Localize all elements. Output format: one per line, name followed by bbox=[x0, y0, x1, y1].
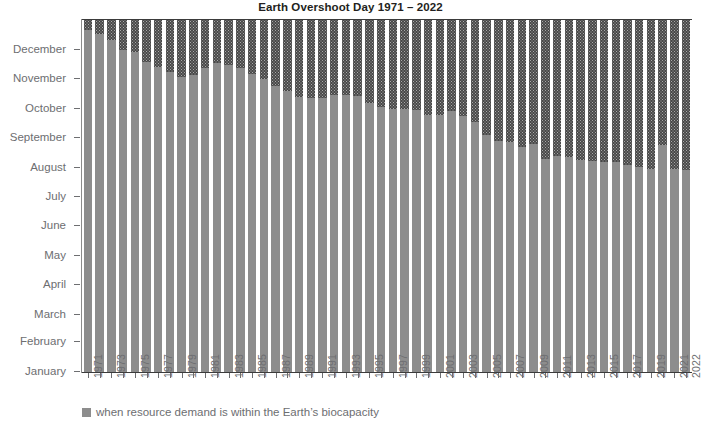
bar-overshoot-segment bbox=[260, 20, 268, 79]
y-axis-label-december: December bbox=[13, 43, 66, 55]
bar-1975 bbox=[131, 20, 139, 372]
x-axis-label-2017: 2017 bbox=[631, 354, 643, 378]
bar-1992 bbox=[330, 20, 338, 372]
x-axis-label-1985: 1985 bbox=[256, 354, 268, 378]
bar-within-biocapacity-segment bbox=[400, 109, 408, 372]
bar-overshoot-segment bbox=[553, 20, 561, 156]
bar-1987 bbox=[271, 20, 279, 372]
bar-overshoot-segment bbox=[119, 20, 127, 50]
y-axis-tick-december bbox=[74, 49, 80, 50]
x-axis-label-1991: 1991 bbox=[326, 354, 338, 378]
bar-within-biocapacity-segment bbox=[612, 162, 620, 372]
bar-within-biocapacity-segment bbox=[529, 144, 537, 372]
bar-1978 bbox=[166, 20, 174, 372]
bar-within-biocapacity-segment bbox=[213, 63, 221, 372]
bar-overshoot-segment bbox=[447, 20, 455, 111]
bar-within-biocapacity-segment bbox=[353, 96, 361, 372]
bar-2009 bbox=[529, 20, 537, 372]
x-axis-label-1983: 1983 bbox=[233, 354, 245, 378]
bar-within-biocapacity-segment bbox=[107, 40, 115, 372]
bar-within-biocapacity-segment bbox=[506, 142, 514, 372]
y-axis-label-july: July bbox=[46, 190, 66, 202]
bar-2011 bbox=[553, 20, 561, 372]
bar-2022 bbox=[682, 20, 690, 372]
y-axis-label-may: May bbox=[44, 249, 66, 261]
bar-2019 bbox=[647, 20, 655, 372]
bar-within-biocapacity-segment bbox=[670, 169, 678, 372]
y-axis-labels: JanuaryFebruaryMarchAprilMayJuneJulyAugu… bbox=[0, 0, 78, 424]
bar-within-biocapacity-segment bbox=[389, 109, 397, 372]
bar-overshoot-segment bbox=[518, 20, 526, 147]
bar-overshoot-segment bbox=[482, 20, 490, 135]
bar-within-biocapacity-segment bbox=[295, 97, 303, 372]
bar-within-biocapacity-segment bbox=[131, 52, 139, 372]
y-axis-tick-march bbox=[74, 314, 80, 315]
bar-1985 bbox=[248, 20, 256, 372]
bar-within-biocapacity-segment bbox=[365, 103, 373, 372]
bar-overshoot-segment bbox=[166, 20, 174, 72]
bar-within-biocapacity-segment bbox=[588, 161, 596, 372]
bar-1973 bbox=[107, 20, 115, 372]
bar-within-biocapacity-segment bbox=[201, 68, 209, 372]
bar-2013 bbox=[576, 20, 584, 372]
y-axis-tick-august bbox=[74, 167, 80, 168]
bar-overshoot-segment bbox=[84, 20, 92, 30]
bar-overshoot-segment bbox=[189, 20, 197, 75]
bar-overshoot-segment bbox=[670, 20, 678, 169]
x-axis-label-2013: 2013 bbox=[585, 354, 597, 378]
chart-title: Earth Overshoot Day 1971 – 2022 bbox=[0, 1, 701, 13]
bar-overshoot-segment bbox=[224, 20, 232, 65]
bar-within-biocapacity-segment bbox=[482, 135, 490, 372]
bar-overshoot-segment bbox=[271, 20, 279, 86]
bar-within-biocapacity-segment bbox=[541, 159, 549, 372]
bar-within-biocapacity-segment bbox=[658, 145, 666, 372]
x-axis-label-2011: 2011 bbox=[561, 355, 573, 378]
bar-1974 bbox=[119, 20, 127, 372]
bar-overshoot-segment bbox=[506, 20, 514, 142]
bar-2008 bbox=[518, 20, 526, 372]
bar-overshoot-segment bbox=[588, 20, 596, 161]
bar-1977 bbox=[154, 20, 162, 372]
bar-overshoot-segment bbox=[154, 20, 162, 67]
bar-1990 bbox=[307, 20, 315, 372]
y-axis-tick-february bbox=[74, 341, 80, 342]
bar-within-biocapacity-segment bbox=[177, 77, 185, 372]
bar-within-biocapacity-segment bbox=[424, 115, 432, 372]
y-axis-label-october: October bbox=[25, 102, 66, 114]
y-axis-tick-october bbox=[74, 108, 80, 109]
bar-2014 bbox=[588, 20, 596, 372]
y-axis-label-november: November bbox=[13, 72, 66, 84]
bar-overshoot-segment bbox=[612, 20, 620, 162]
bar-within-biocapacity-segment bbox=[307, 98, 315, 372]
bar-1991 bbox=[318, 20, 326, 372]
bar-within-biocapacity-segment bbox=[236, 68, 244, 372]
bar-2021 bbox=[670, 20, 678, 372]
x-axis-label-1987: 1987 bbox=[280, 354, 292, 378]
bar-overshoot-segment bbox=[471, 20, 479, 122]
x-axis-label-2001: 2001 bbox=[444, 354, 456, 378]
bar-1976 bbox=[142, 20, 150, 372]
x-axis-label-1999: 1999 bbox=[420, 354, 432, 378]
bar-within-biocapacity-segment bbox=[600, 162, 608, 372]
bar-1997 bbox=[389, 20, 397, 372]
bar-2001 bbox=[436, 20, 444, 372]
bar-1988 bbox=[283, 20, 291, 372]
bar-overshoot-segment bbox=[424, 20, 432, 115]
bar-1981 bbox=[201, 20, 209, 372]
bar-within-biocapacity-segment bbox=[283, 91, 291, 372]
bar-overshoot-segment bbox=[236, 20, 244, 68]
bar-within-biocapacity-segment bbox=[565, 157, 573, 372]
bar-overshoot-segment bbox=[142, 20, 150, 62]
bar-1995 bbox=[365, 20, 373, 372]
bar-within-biocapacity-segment bbox=[471, 122, 479, 372]
x-axis-label-1993: 1993 bbox=[350, 354, 362, 378]
bar-2010 bbox=[541, 20, 549, 372]
plot-area bbox=[82, 20, 692, 372]
y-axis-tick-november bbox=[74, 78, 80, 79]
bar-overshoot-segment bbox=[389, 20, 397, 109]
bar-overshoot-segment bbox=[436, 20, 444, 115]
bar-overshoot-segment bbox=[353, 20, 361, 96]
bar-2015 bbox=[600, 20, 608, 372]
bar-2003 bbox=[459, 20, 467, 372]
x-axis-label-2007: 2007 bbox=[514, 354, 526, 378]
